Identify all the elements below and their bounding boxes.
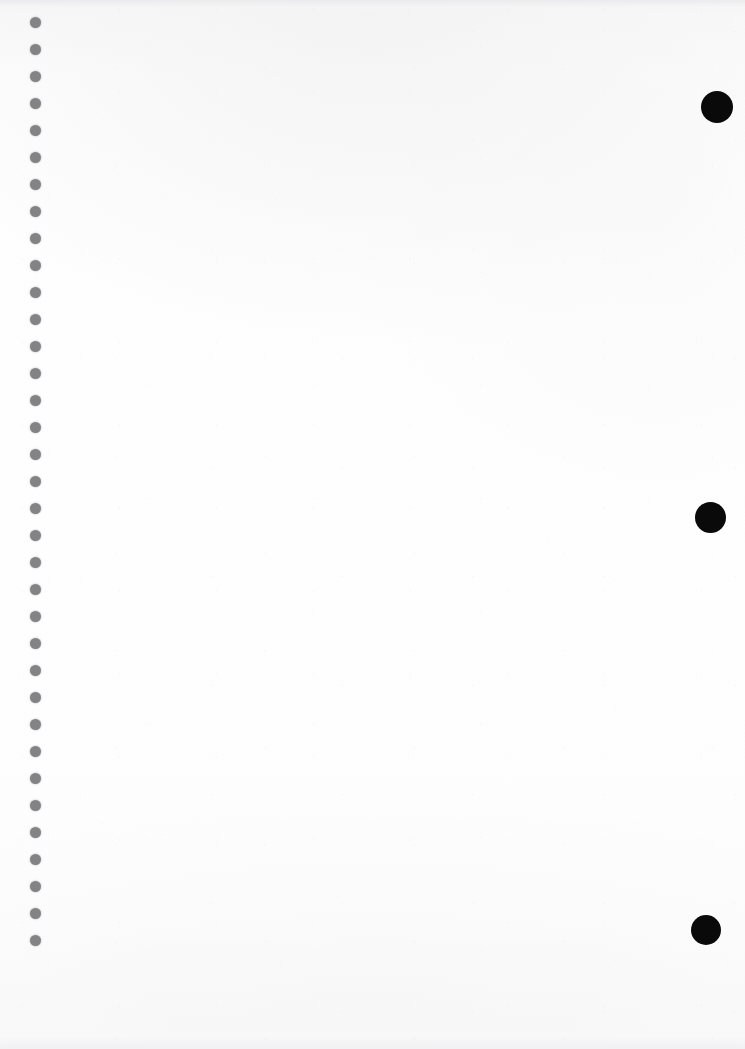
binding-punch-hole [30, 611, 41, 622]
binding-punch-hole [30, 476, 41, 487]
binding-punch-hole [30, 44, 41, 55]
binding-punch-hole [30, 881, 41, 892]
spiral-binding-punch-holes [0, 0, 70, 1049]
registration-mark [691, 915, 721, 945]
binding-punch-hole [30, 719, 41, 730]
binding-punch-hole [30, 908, 41, 919]
binding-punch-hole [30, 98, 41, 109]
binding-punch-hole [30, 665, 41, 676]
binding-punch-hole [30, 746, 41, 757]
binding-punch-hole [30, 179, 41, 190]
binding-punch-hole [30, 530, 41, 541]
binding-punch-hole [30, 827, 41, 838]
binding-punch-hole [30, 395, 41, 406]
binding-punch-hole [30, 773, 41, 784]
binding-punch-hole [30, 935, 41, 946]
binding-punch-hole [30, 449, 41, 460]
scanned-page [0, 0, 745, 1049]
binding-punch-hole [30, 206, 41, 217]
binding-punch-hole [30, 287, 41, 298]
binding-punch-hole [30, 854, 41, 865]
binding-punch-hole [30, 584, 41, 595]
binding-punch-hole [30, 341, 41, 352]
binding-punch-hole [30, 71, 41, 82]
binding-punch-hole [30, 557, 41, 568]
scan-grain-texture [0, 0, 745, 1049]
binding-punch-hole [30, 422, 41, 433]
binding-punch-hole [30, 314, 41, 325]
binding-punch-hole [30, 692, 41, 703]
binding-punch-hole [30, 800, 41, 811]
registration-mark [695, 502, 726, 533]
binding-punch-hole [30, 17, 41, 28]
binding-punch-hole [30, 260, 41, 271]
binding-punch-hole [30, 368, 41, 379]
binding-punch-hole [30, 125, 41, 136]
registration-mark [701, 91, 733, 123]
binding-punch-hole [30, 638, 41, 649]
binding-punch-hole [30, 233, 41, 244]
binding-punch-hole [30, 152, 41, 163]
binding-punch-hole [30, 503, 41, 514]
